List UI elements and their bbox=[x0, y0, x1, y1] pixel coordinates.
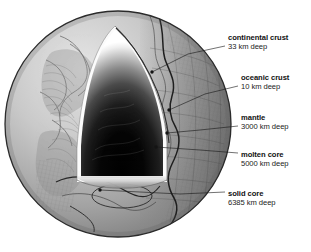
label-solid-core-title: solid core bbox=[228, 189, 263, 198]
label-mantle-subtitle: 3000 km deep bbox=[241, 122, 289, 131]
label-oceanic-crust-title: oceanic crust bbox=[241, 73, 290, 82]
label-oceanic-crust: oceanic crust 10 km deep bbox=[241, 73, 290, 91]
labels-group: continental crust 33 km deep oceanic cru… bbox=[228, 33, 290, 207]
point-mantle bbox=[165, 131, 168, 134]
point-continental-crust bbox=[150, 70, 153, 73]
label-continental-crust-title: continental crust bbox=[228, 33, 289, 42]
point-molten-core bbox=[154, 145, 157, 148]
label-molten-core-title: molten core bbox=[241, 150, 284, 159]
label-molten-core-subtitle: 5000 km deep bbox=[241, 159, 289, 168]
label-molten-core: molten core 5000 km deep bbox=[241, 150, 289, 168]
earth-cutaway-svg: continental crust 33 km deep oceanic cru… bbox=[0, 0, 311, 252]
label-mantle: mantle 3000 km deep bbox=[241, 113, 289, 131]
label-mantle-title: mantle bbox=[241, 113, 265, 122]
label-solid-core-subtitle: 6385 km deep bbox=[228, 198, 276, 207]
point-oceanic-crust bbox=[167, 108, 170, 111]
label-solid-core: solid core 6385 km deep bbox=[228, 189, 276, 207]
diagram-canvas: continental crust 33 km deep oceanic cru… bbox=[0, 0, 311, 252]
label-continental-crust: continental crust 33 km deep bbox=[228, 33, 289, 51]
point-solid-core bbox=[98, 188, 101, 191]
label-continental-crust-subtitle: 33 km deep bbox=[228, 42, 267, 51]
label-oceanic-crust-subtitle: 10 km deep bbox=[241, 82, 280, 91]
